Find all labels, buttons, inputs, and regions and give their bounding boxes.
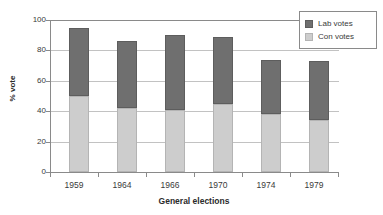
x-tick-label-1974: 1974 <box>239 180 293 190</box>
gridline-80 <box>51 50 339 51</box>
bar-segment-con-1970[interactable] <box>213 104 233 172</box>
x-tick-label-1970: 1970 <box>191 180 245 190</box>
bar-segment-con-1959[interactable] <box>69 96 89 172</box>
legend-label-lab-votes: Lab votes <box>318 19 353 28</box>
y-tick-label-20: 20 <box>20 138 46 146</box>
bar-segment-lab-1966[interactable] <box>165 35 185 109</box>
bar-1970[interactable] <box>213 37 233 172</box>
x-tick-label-1966: 1966 <box>143 180 197 190</box>
y-tick-label-80: 80 <box>20 46 46 54</box>
gridline-40 <box>51 111 339 112</box>
bar-segment-con-1974[interactable] <box>261 114 281 172</box>
x-tick-mark-3 <box>194 172 195 177</box>
x-tick-mark-0 <box>50 172 51 177</box>
gridline-100 <box>51 20 339 21</box>
legend-item-con-votes[interactable]: Con votes <box>305 30 372 43</box>
x-tick-mark-4 <box>242 172 243 177</box>
x-axis-title: General elections <box>50 196 338 206</box>
bar-segment-con-1966[interactable] <box>165 110 185 172</box>
x-tick-label-1964: 1964 <box>95 180 149 190</box>
legend-label-con-votes: Con votes <box>318 32 354 41</box>
bar-segment-lab-1979[interactable] <box>309 61 329 120</box>
legend-swatch-con-icon <box>305 33 313 41</box>
x-tick-label-1979: 1979 <box>287 180 341 190</box>
stacked-bar-chart: % vote 100 80 60 40 20 0 1959 1964 1966 … <box>0 0 383 215</box>
x-tick-label-1959: 1959 <box>47 180 101 190</box>
bar-segment-lab-1974[interactable] <box>261 60 281 115</box>
bar-segment-con-1964[interactable] <box>117 108 137 172</box>
y-tick-label-0: 0 <box>20 168 46 176</box>
y-tick-label-100: 100 <box>20 16 46 24</box>
y-tick-label-60: 60 <box>20 77 46 85</box>
bar-segment-con-1979[interactable] <box>309 120 329 172</box>
bar-1964[interactable] <box>117 41 137 172</box>
bar-1966[interactable] <box>165 35 185 172</box>
x-tick-mark-5 <box>290 172 291 177</box>
bar-1979[interactable] <box>309 61 329 172</box>
plot-area <box>50 20 339 173</box>
gridline-20 <box>51 142 339 143</box>
bar-1974[interactable] <box>261 60 281 172</box>
bar-segment-lab-1964[interactable] <box>117 41 137 108</box>
bar-1959[interactable] <box>69 28 89 172</box>
y-axis-tick-labels: 100 80 60 40 20 0 <box>14 0 46 215</box>
x-tick-mark-6 <box>338 172 339 177</box>
legend-swatch-lab-icon <box>305 20 313 28</box>
x-tick-mark-2 <box>146 172 147 177</box>
bar-segment-lab-1970[interactable] <box>213 37 233 104</box>
gridline-60 <box>51 81 339 82</box>
chart-legend: Lab votes Con votes <box>299 11 377 49</box>
x-tick-mark-1 <box>98 172 99 177</box>
legend-item-lab-votes[interactable]: Lab votes <box>305 17 372 30</box>
bar-segment-lab-1959[interactable] <box>69 28 89 96</box>
y-tick-label-40: 40 <box>20 107 46 115</box>
